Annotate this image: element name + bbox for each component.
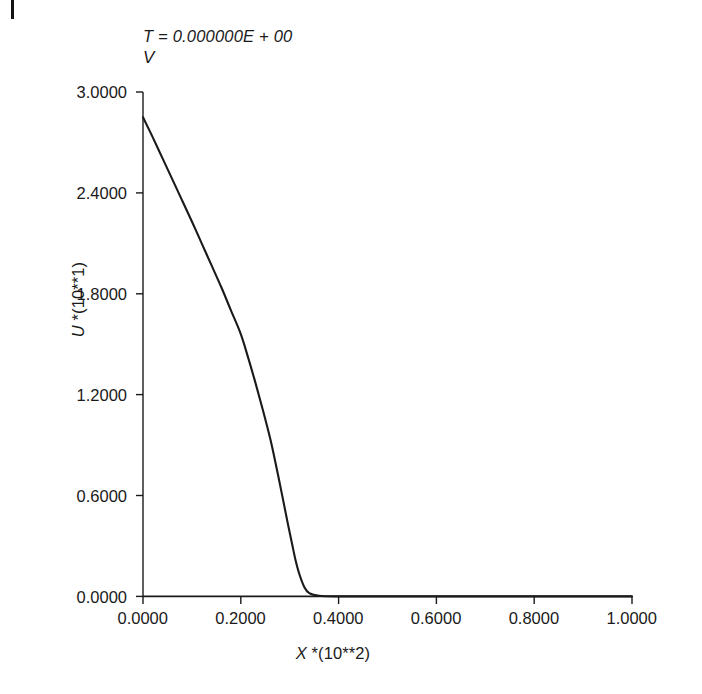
x-tick-label: 0.2000 [215,609,265,628]
y-tick-label: 0.6000 [77,486,127,505]
y-tick-label: 1.2000 [77,386,127,405]
y-tick-label: 3.0000 [77,83,127,102]
chart-annotation: T = 0.000000E + 00 V [143,26,292,69]
y-tick-marks [136,92,143,596]
x-tick-label: 0.0000 [117,609,167,628]
annotation-variable: V [143,47,292,69]
x-axis-title-suffix: *(10**2) [307,644,370,662]
x-tick-label: 0.6000 [411,609,461,628]
x-tick-marks [143,597,632,605]
y-axis-title: U *(10**1) [69,240,88,360]
x-tick-label: 0.8000 [509,609,559,628]
annotation-time: T = 0.000000E + 00 [143,26,292,47]
plot-area [143,92,632,596]
x-tick-label: 0.4000 [313,609,363,628]
data-series-line [143,118,632,597]
y-tick-label: 2.4000 [77,184,127,203]
x-axis-title: X *(10**2) [0,644,702,663]
y-tick-label: 0.0000 [77,587,127,606]
x-tick-label-group: 0.0000 0.2000 0.4000 0.6000 0.8000 1.000… [0,609,702,635]
chart-figure: T = 0.000000E + 00 V 3.0000 2.4000 1.800… [0,0,702,694]
y-axis-title-suffix: *(10**1) [69,262,87,325]
y-axis-title-symbol: U [69,325,87,337]
x-tick-label: 1.0000 [606,609,656,628]
x-axis-title-symbol: X [296,644,307,662]
plot-svg [129,86,649,611]
y-tick-label-group: 3.0000 2.4000 1.8000 1.2000 0.6000 0.000… [0,0,127,694]
